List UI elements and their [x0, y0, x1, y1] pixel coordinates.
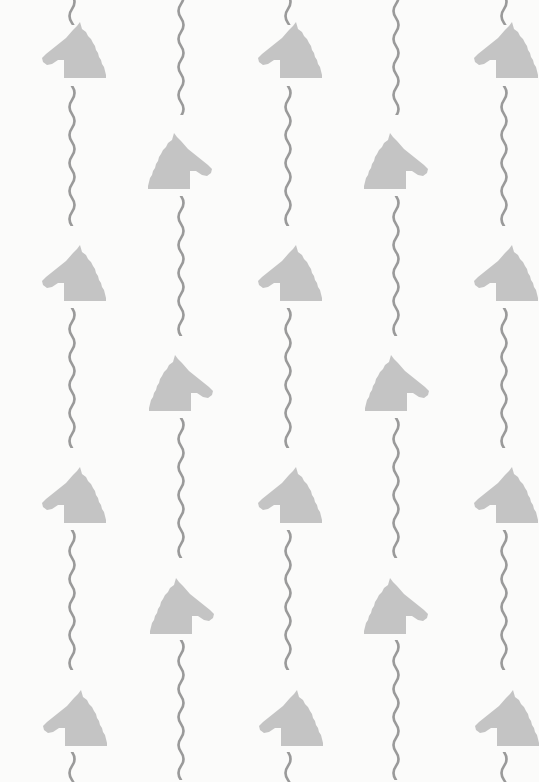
wavy-line-icon — [66, 530, 78, 670]
wavy-line-icon — [498, 86, 510, 226]
horse-head-left-icon — [474, 20, 538, 78]
wavy-line-icon — [175, 196, 187, 336]
horse-head-right-icon — [364, 131, 428, 189]
horse-head-left-icon — [42, 465, 106, 523]
wavy-line-icon — [498, 308, 510, 448]
horse-head-right-icon — [148, 131, 212, 189]
wavy-line-icon — [66, 752, 78, 782]
horse-head-right-icon — [149, 353, 213, 411]
wavy-line-icon — [282, 530, 294, 670]
horse-head-left-icon — [42, 20, 106, 78]
wavy-line-icon — [498, 752, 510, 782]
wavy-line-icon — [175, 0, 187, 115]
horse-head-right-icon — [150, 576, 214, 634]
wavy-line-icon — [282, 308, 294, 448]
horse-head-right-icon — [365, 353, 429, 411]
wavy-line-icon — [390, 640, 402, 780]
wavy-line-icon — [282, 752, 294, 782]
wavy-line-icon — [390, 418, 402, 558]
horse-head-left-icon — [475, 688, 539, 746]
horse-head-left-icon — [42, 243, 106, 301]
wavy-line-icon — [175, 418, 187, 558]
horse-head-left-icon — [258, 20, 322, 78]
wavy-line-icon — [66, 86, 78, 226]
horse-head-left-icon — [259, 688, 323, 746]
horse-head-left-icon — [258, 465, 322, 523]
wavy-line-icon — [498, 530, 510, 670]
horse-head-right-icon — [364, 576, 428, 634]
horse-head-left-icon — [258, 243, 322, 301]
wavy-line-icon — [175, 640, 187, 780]
wavy-line-icon — [282, 86, 294, 226]
horse-head-left-icon — [43, 688, 107, 746]
horse-head-left-icon — [474, 465, 538, 523]
wavy-line-icon — [66, 308, 78, 448]
wavy-line-icon — [390, 0, 402, 115]
wavy-line-icon — [390, 196, 402, 336]
horse-head-left-icon — [474, 243, 538, 301]
